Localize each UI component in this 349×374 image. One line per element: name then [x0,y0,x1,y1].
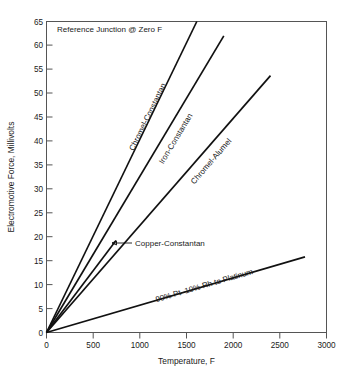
label-pt-rh-platinum: 90% Pt–10% Rh to Platinum [155,267,255,304]
y-tick-label: 40 [34,137,44,146]
x-tick-label: 0 [44,341,49,350]
y-tick-label: 0 [38,329,43,338]
thermocouple-emf-chart: 0 5 10 15 20 25 30 35 40 45 50 55 60 65 [0,0,349,374]
y-tick-label: 45 [34,113,44,122]
y-tick-label: 60 [34,41,44,50]
y-tick-label: 10 [34,281,44,290]
label-copper-constantan: Copper-Constantan [135,239,205,248]
x-tick-label: 3000 [317,341,336,350]
y-tick-label: 5 [38,305,43,314]
y-tick-label: 25 [34,209,44,218]
y-tick-label: 55 [34,65,44,74]
y-tick-label: 65 [34,18,44,27]
curve-chromel-constantan [47,22,197,333]
y-tick-label: 30 [34,185,44,194]
curve-copper-constantan [47,241,117,333]
x-tick-label: 1000 [131,341,150,350]
copper-constantan-leader [112,241,132,245]
chart-svg: 0 5 10 15 20 25 30 35 40 45 50 55 60 65 [0,0,349,374]
y-axis-title: Electromotive Force, Millivolts [6,122,16,233]
y-tick-label: 50 [34,89,44,98]
x-axis-tick-labels: 0 500 1000 1500 2000 2500 3000 [44,341,336,350]
reference-junction-note: Reference Junction @ Zero F [57,25,162,34]
y-axis-tick-labels: 0 5 10 15 20 25 30 35 40 45 50 55 60 65 [34,18,44,338]
x-tick-label: 1500 [177,341,196,350]
x-tick-label: 2000 [224,341,243,350]
x-tick-label: 500 [86,341,100,350]
y-tick-label: 20 [34,233,44,242]
x-tick-label: 2500 [271,341,290,350]
y-tick-label: 35 [34,161,44,170]
x-axis-title: Temperature, F [158,356,215,366]
label-chromel-constantan: Chromel-Constantan [128,82,168,152]
x-axis-ticks [47,333,327,339]
y-axis-ticks [47,22,53,333]
y-tick-label: 15 [34,257,44,266]
